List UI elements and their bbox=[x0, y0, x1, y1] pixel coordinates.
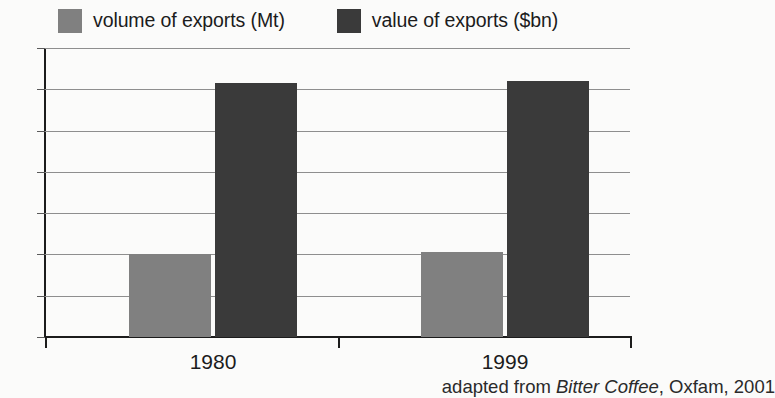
legend-label-value: value of exports ($bn) bbox=[372, 11, 558, 31]
legend-swatch-value-icon bbox=[337, 9, 361, 33]
x-category-label-1980: 1980 bbox=[190, 351, 237, 372]
plot-area: 02468101214 bbox=[45, 48, 630, 337]
y-tick-10 bbox=[37, 131, 45, 132]
y-tick-14 bbox=[37, 48, 45, 49]
y-tick-12 bbox=[37, 89, 45, 90]
bar-1999-value bbox=[507, 81, 589, 337]
gridline-14 bbox=[45, 48, 630, 49]
legend-item-value: value of exports ($bn) bbox=[337, 9, 558, 33]
chart-legend: volume of exports (Mt) value of exports … bbox=[0, 4, 761, 38]
legend-item-volume: volume of exports (Mt) bbox=[58, 9, 285, 33]
x-axis: 19801999 bbox=[45, 337, 632, 377]
y-tick-2 bbox=[37, 296, 45, 297]
x-category-label-1999: 1999 bbox=[482, 351, 529, 372]
y-tick-0 bbox=[37, 337, 45, 338]
caption-suffix: , Oxfam, 2001 bbox=[659, 376, 775, 397]
y-tick-8 bbox=[37, 172, 45, 173]
legend-swatch-volume-icon bbox=[58, 9, 82, 33]
y-tick-6 bbox=[37, 213, 45, 214]
y-tick-4 bbox=[37, 254, 45, 255]
x-axis-tick-0 bbox=[45, 337, 47, 348]
bar-1980-value bbox=[215, 83, 297, 337]
bar-1999-volume bbox=[421, 252, 503, 337]
bar-1980-volume bbox=[129, 254, 211, 337]
source-caption: adapted from Bitter Coffee, Oxfam, 2001 bbox=[0, 377, 775, 397]
y-axis-line bbox=[44, 48, 46, 337]
caption-prefix: adapted from bbox=[442, 376, 556, 397]
x-axis-tick-1 bbox=[338, 337, 340, 348]
x-axis-tick-2 bbox=[630, 337, 632, 348]
legend-label-volume: volume of exports (Mt) bbox=[93, 11, 285, 31]
caption-book-title: Bitter Coffee bbox=[556, 376, 659, 397]
